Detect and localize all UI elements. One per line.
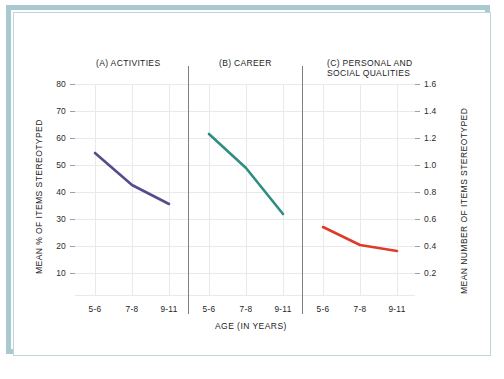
series-line-activities <box>95 153 169 204</box>
xtick-label-a-2: 9-11 <box>154 304 184 314</box>
xtick-label-c-1: 7-8 <box>345 304 375 314</box>
series-layer <box>18 16 486 350</box>
series-line-personal-social <box>323 227 397 251</box>
xtick-label-b-2: 9-11 <box>268 304 298 314</box>
plot-surface: (A) ACTIVITIES (B) CAREER (C) PERSONAL A… <box>18 16 486 350</box>
xtick-label-c-0: 5-6 <box>308 304 338 314</box>
xtick-label-a-1: 7-8 <box>117 304 147 314</box>
xtick-label-a-0: 5-6 <box>80 304 110 314</box>
x-axis-title: AGE (IN YEARS) <box>215 321 287 331</box>
xtick-label-c-2: 9-11 <box>382 304 412 314</box>
figure-root: (A) ACTIVITIES (B) CAREER (C) PERSONAL A… <box>0 0 504 379</box>
xtick-label-b-1: 7-8 <box>231 304 261 314</box>
xtick-label-b-0: 5-6 <box>194 304 224 314</box>
series-line-career <box>209 134 283 214</box>
